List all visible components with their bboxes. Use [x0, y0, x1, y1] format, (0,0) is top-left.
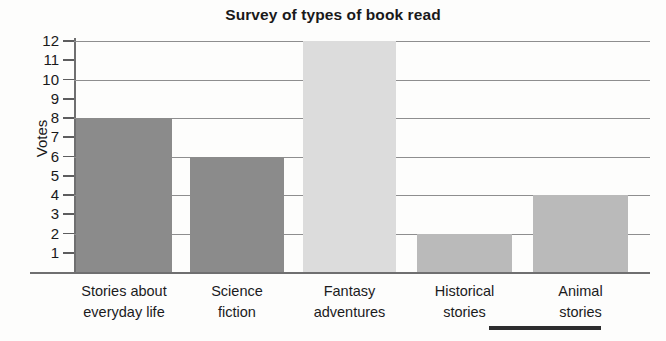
y-tick-mark-3	[63, 213, 74, 215]
y-tick-label-8: 8	[25, 110, 59, 125]
plot-area	[74, 41, 650, 272]
y-tick-mark-5	[63, 175, 74, 177]
chart-title: Survey of types of book read	[0, 6, 666, 24]
y-tick-mark-6	[63, 156, 74, 158]
y-tick-label-7: 7	[25, 129, 59, 144]
bar-5	[533, 195, 628, 272]
y-tick-mark-8	[63, 117, 74, 119]
bar-3	[303, 41, 396, 272]
y-tick-mark-1	[63, 252, 74, 254]
y-tick-mark-12	[63, 40, 74, 42]
x-axis-label-line: stories	[506, 302, 656, 323]
y-tick-label-2: 2	[25, 226, 59, 241]
bar-2	[190, 157, 284, 273]
y-tick-label-4: 4	[25, 187, 59, 202]
y-tick-mark-10	[63, 79, 74, 81]
bar-4	[417, 234, 512, 273]
x-axis-label-line: Animal	[506, 281, 656, 302]
x-axis-line	[30, 272, 650, 274]
y-tick-label-1: 1	[25, 245, 59, 260]
y-tick-label-6: 6	[25, 149, 59, 164]
y-tick-label-9: 9	[25, 91, 59, 106]
y-tick-mark-4	[63, 194, 74, 196]
y-tick-mark-2	[63, 233, 74, 235]
y-tick-mark-11	[63, 59, 74, 61]
y-tick-mark-7	[63, 136, 74, 138]
x-axis-label-5: Animalstories	[506, 281, 656, 322]
y-tick-label-11: 11	[25, 52, 59, 67]
y-tick-label-12: 12	[25, 33, 59, 48]
y-tick-label-10: 10	[25, 72, 59, 87]
y-tick-label-5: 5	[25, 168, 59, 183]
bar-1	[76, 118, 172, 272]
y-tick-mark-9	[63, 98, 74, 100]
scan-artifact-line	[489, 326, 601, 330]
chart-page: Survey of types of book read Votes 12345…	[0, 0, 666, 341]
y-tick-label-3: 3	[25, 206, 59, 221]
